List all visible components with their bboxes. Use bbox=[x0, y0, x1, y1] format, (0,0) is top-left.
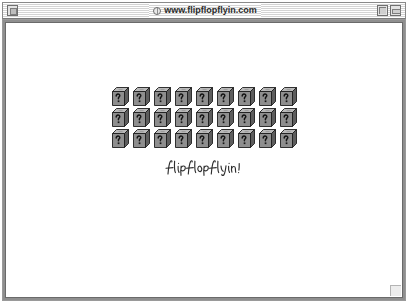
cube-grid-row bbox=[112, 108, 297, 127]
question-mark-cube-icon[interactable] bbox=[196, 108, 213, 127]
question-mark-cube-icon[interactable] bbox=[133, 129, 150, 148]
question-mark-cube-icon[interactable] bbox=[217, 108, 234, 127]
question-mark-cube-icon[interactable] bbox=[154, 108, 171, 127]
window-title-area: www.flipflopflyin.com bbox=[3, 3, 407, 18]
question-mark-cube-icon[interactable] bbox=[259, 87, 276, 106]
question-mark-cube-icon[interactable] bbox=[175, 129, 192, 148]
question-mark-cube-icon[interactable] bbox=[154, 87, 171, 106]
browser-window: www.flipflopflyin.com bbox=[0, 0, 408, 303]
window-title-bar[interactable]: www.flipflopflyin.com bbox=[2, 2, 406, 19]
question-mark-cube-icon[interactable] bbox=[238, 129, 255, 148]
question-mark-cube-icon[interactable] bbox=[217, 87, 234, 106]
cube-grid-row bbox=[112, 129, 297, 148]
question-mark-cube-icon[interactable] bbox=[133, 108, 150, 127]
globe-icon bbox=[153, 7, 161, 15]
cube-grid-row bbox=[112, 87, 297, 106]
question-mark-cube-icon[interactable] bbox=[238, 87, 255, 106]
question-mark-cube-icon[interactable] bbox=[259, 108, 276, 127]
window-title-text: www.flipflopflyin.com bbox=[164, 5, 257, 16]
question-mark-cube-icon[interactable] bbox=[112, 129, 129, 148]
question-mark-cube-icon[interactable] bbox=[217, 129, 234, 148]
question-mark-cube-icon[interactable] bbox=[133, 87, 150, 106]
web-page-canvas bbox=[5, 22, 403, 298]
question-mark-cube-icon[interactable] bbox=[280, 108, 297, 127]
window-collapse-box[interactable] bbox=[390, 5, 401, 16]
window-content-frame bbox=[2, 19, 406, 301]
flipflopflyin-signature bbox=[165, 159, 243, 176]
window-title-bar-controls bbox=[377, 5, 401, 16]
question-mark-cube-icon[interactable] bbox=[112, 108, 129, 127]
window-resize-grip[interactable] bbox=[387, 282, 401, 296]
question-mark-cube-icon[interactable] bbox=[280, 87, 297, 106]
question-mark-cube-icon[interactable] bbox=[196, 87, 213, 106]
question-mark-cube-icon[interactable] bbox=[175, 87, 192, 106]
question-mark-cube-icon[interactable] bbox=[238, 108, 255, 127]
cube-grid-rows bbox=[112, 87, 297, 150]
question-mark-cube-icon[interactable] bbox=[154, 129, 171, 148]
question-mark-cube-icon[interactable] bbox=[280, 129, 297, 148]
question-mark-cube-icon[interactable] bbox=[112, 87, 129, 106]
question-mark-cube-icon[interactable] bbox=[196, 129, 213, 148]
cube-grid bbox=[6, 87, 402, 176]
window-zoom-box[interactable] bbox=[377, 5, 388, 16]
question-mark-cube-icon[interactable] bbox=[175, 108, 192, 127]
window-close-box[interactable] bbox=[7, 5, 18, 16]
question-mark-cube-icon[interactable] bbox=[259, 129, 276, 148]
